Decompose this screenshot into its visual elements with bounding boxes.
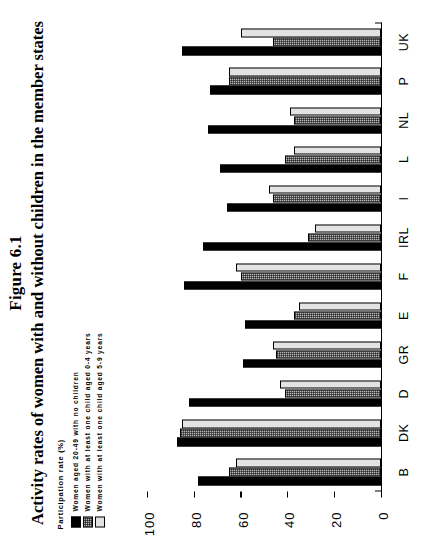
bar xyxy=(210,85,381,93)
bar xyxy=(182,419,381,427)
bar xyxy=(285,155,381,163)
bar xyxy=(189,398,381,406)
bar-group: L xyxy=(145,146,381,172)
bar xyxy=(227,203,381,211)
bar xyxy=(294,146,381,154)
bar xyxy=(229,76,381,84)
category-label: E xyxy=(397,311,411,320)
axis-tick-label: 20 xyxy=(329,511,344,545)
plot-area: 020406080100 BDKDGREFIRLILNLPUK xyxy=(146,22,382,491)
bar-group: NL xyxy=(145,107,381,133)
bar-group: DK xyxy=(145,419,381,445)
bar xyxy=(236,263,381,271)
bar xyxy=(229,67,381,75)
bar xyxy=(198,476,381,484)
legend-label: Women with at least one child aged 5-9 y… xyxy=(96,332,103,511)
axis-tick-label: 60 xyxy=(236,511,251,545)
bar xyxy=(184,281,381,289)
legend-label: Women with at least one child aged 0-4 y… xyxy=(84,332,91,511)
bar xyxy=(243,359,381,367)
chart-legend: Women aged 20-49 with no children Women … xyxy=(70,332,106,527)
axis-caption: Participation rate (%) xyxy=(56,439,65,529)
bar xyxy=(273,194,381,202)
legend-item: Women aged 20-49 with no children xyxy=(70,332,81,527)
bar-group: P xyxy=(145,67,381,93)
bar xyxy=(241,272,381,280)
bar xyxy=(294,116,381,124)
axis-tick-label: 100 xyxy=(142,511,157,545)
category-label: NL xyxy=(397,111,411,128)
bar-group: IRL xyxy=(145,224,381,250)
axis-tick-label: 0 xyxy=(376,511,391,545)
figure-page: Figure 6.1 Activity rates of women with … xyxy=(0,0,422,545)
category-label: UK xyxy=(397,32,411,50)
category-label: I xyxy=(397,196,411,200)
bar-group: GR xyxy=(145,341,381,367)
bar xyxy=(229,467,381,475)
axis-tick xyxy=(334,491,335,497)
bar-group: B xyxy=(145,458,381,484)
bar xyxy=(280,380,381,388)
legend-swatch-no-children-icon xyxy=(71,516,81,527)
bar xyxy=(285,389,381,397)
bar xyxy=(290,107,381,115)
bar-group: I xyxy=(145,185,381,211)
bar-group: E xyxy=(145,302,381,328)
legend-item: Women with at least one child aged 0-4 y… xyxy=(82,332,93,527)
bar xyxy=(220,164,381,172)
legend-swatch-child-5-9-icon xyxy=(95,516,105,527)
axis-tick xyxy=(287,491,288,497)
bar xyxy=(182,46,381,54)
axis-tick xyxy=(381,491,382,497)
category-label: B xyxy=(397,467,411,476)
bar xyxy=(294,311,381,319)
category-label: L xyxy=(397,155,411,162)
bar xyxy=(241,28,381,36)
axis-tick-label: 80 xyxy=(189,511,204,545)
bar xyxy=(315,224,381,232)
axis-cap-right xyxy=(375,22,382,23)
legend-item: Women with at least one child aged 5-9 y… xyxy=(94,332,105,527)
bar xyxy=(273,341,381,349)
bar-group: F xyxy=(145,263,381,289)
bar xyxy=(177,437,381,445)
figure-number: Figure 6.1 xyxy=(6,0,26,545)
bar xyxy=(203,242,381,250)
bar xyxy=(269,185,381,193)
category-label: IRL xyxy=(397,226,411,247)
axis-tick xyxy=(240,491,241,497)
bar xyxy=(208,125,381,133)
bar xyxy=(245,320,381,328)
bar xyxy=(273,37,381,45)
axis-tick xyxy=(147,491,148,497)
category-label: F xyxy=(397,272,411,280)
category-label: D xyxy=(397,389,411,399)
figure-title: Activity rates of women with and without… xyxy=(28,0,48,545)
bar xyxy=(180,428,381,436)
bar xyxy=(308,233,381,241)
bar xyxy=(299,302,381,310)
category-label: P xyxy=(397,76,411,85)
category-label: DK xyxy=(397,423,411,441)
legend-swatch-child-0-4-icon xyxy=(83,516,93,527)
axis-tick-label: 40 xyxy=(282,511,297,545)
bar xyxy=(236,458,381,466)
legend-label: Women aged 20-49 with no children xyxy=(72,371,79,511)
category-label: GR xyxy=(397,344,411,364)
bar xyxy=(276,350,381,358)
plot-inner: 020406080100 BDKDGREFIRLILNLPUK xyxy=(146,22,382,491)
bar-group: D xyxy=(145,380,381,406)
bar-group: UK xyxy=(145,28,381,54)
axis-tick xyxy=(194,491,195,497)
